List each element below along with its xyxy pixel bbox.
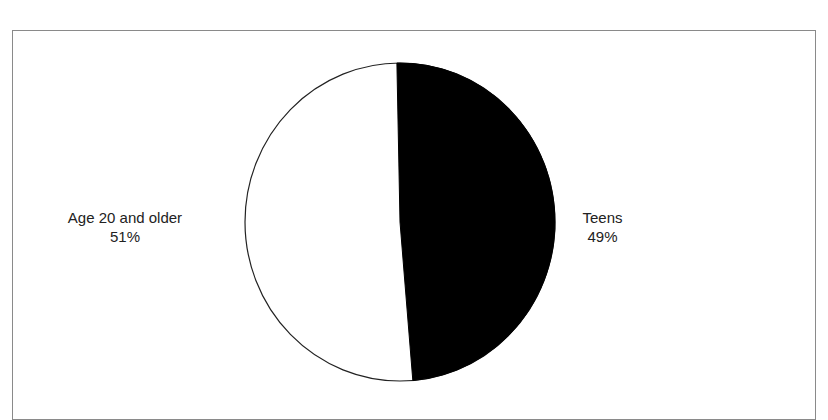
label-percent: 49% — [565, 227, 640, 246]
slice-teens — [397, 63, 555, 380]
label-percent: 51% — [40, 227, 210, 246]
label-age-20-and-older: Age 20 and older 51% — [40, 208, 210, 246]
label-name: Age 20 and older — [40, 208, 210, 227]
label-teens: Teens 49% — [565, 208, 640, 246]
label-name: Teens — [565, 208, 640, 227]
